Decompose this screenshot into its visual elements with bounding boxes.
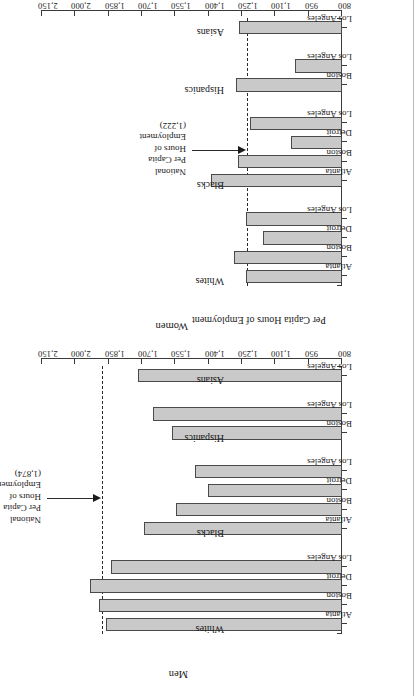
reference-annotation-line: Hours of [154,142,186,154]
chart-panel-men: Men Per Capita Hours of Employment 80095… [0,348,400,696]
value-axis-tick-label: 2,150 [38,349,58,359]
category-axis-tick [342,432,347,433]
value-axis-tick-label: 1,400 [205,1,225,11]
category-axis-tick [342,180,347,181]
bar [90,579,342,592]
bar [144,522,342,535]
group-label: Blacks [197,528,224,539]
category-label: Los Angeles [307,457,352,467]
category-axis-tick [342,470,347,471]
category-axis-tick [342,375,347,376]
value-axis-title: Per Capita Hours of Employment [192,315,326,326]
category-axis-tick [342,528,347,529]
value-axis-tick-label: 2,000 [71,1,91,11]
reference-annotation-line: Hours of [10,490,42,502]
category-label: Los Angeles [307,400,352,410]
panel-title-women: Women [156,321,188,332]
category-label: Los Angeles [307,362,352,372]
bar [211,174,342,187]
bar [176,503,342,516]
value-axis-tick-label: 950 [305,349,318,359]
value-axis-tick-label: 1,400 [205,349,225,359]
reference-annotation-line: Employment [140,131,187,143]
national-reference-line [247,18,248,286]
value-axis-tick-label: 1,700 [138,349,158,359]
reference-annotation-line: National [10,513,41,525]
category-axis-tick [342,84,347,85]
reference-arrow-head [238,146,246,154]
reference-arrow-shaft [47,498,95,499]
value-axis-tick-label: 1,550 [171,349,191,359]
value-axis-tick-label: 1,850 [105,349,125,359]
category-label: Los Angeles [307,14,352,24]
category-axis-tick [342,218,347,219]
category-axis-tick [342,566,347,567]
value-axis-tick-label: 1,550 [171,1,191,11]
category-axis-tick [342,275,347,276]
group-label: Whites [196,624,224,635]
chart-panel-women: Women Per Capita Hours of Employment 800… [0,0,400,348]
figure-page: Women Per Capita Hours of Employment 800… [0,0,414,696]
category-axis-tick [342,237,347,238]
category-axis-tick [342,27,347,28]
reference-annotation-line: National [155,165,186,177]
category-axis-tick [342,413,347,414]
reference-annotation-line: Employment [0,479,41,491]
group-label: Asians [197,27,224,38]
value-axis-tick-label: 1,250 [238,349,258,359]
bar [208,484,342,497]
category-axis-tick [342,65,347,66]
category-axis-tick [342,509,347,510]
value-axis-tick-label: 1,250 [238,1,258,11]
category-axis-tick [342,489,347,490]
group-label: Hispanics [185,85,224,96]
group-label: Asians [197,375,224,386]
group-label: Blacks [197,180,224,191]
category-axis-tick [342,141,347,142]
reference-annotation-line: (1,874) [15,467,41,479]
category-axis-tick [342,122,347,123]
reference-annotation-line: Per Capita [4,502,42,514]
group-label: Whites [196,276,224,287]
value-axis-tick-label: 1,700 [138,1,158,11]
category-axis-tick [342,256,347,257]
value-axis-tick-label: 1,850 [105,1,125,11]
category-label: Los Angeles [307,205,352,215]
category-label: Los Angeles [307,52,352,62]
category-axis-tick [342,623,347,624]
national-reference-line [102,366,103,634]
reference-annotation-line: (1,222) [160,119,186,131]
bar [106,618,342,631]
panel-title-men: Men [169,669,188,680]
value-axis-tick-label: 950 [305,1,318,11]
reference-arrow-shaft [192,150,240,151]
reference-arrow-head [93,494,101,502]
value-axis-tick-label: 800 [338,1,351,11]
category-label: Los Angeles [307,553,352,563]
value-axis-tick-label: 2,150 [38,1,58,11]
group-label: Hispanics [185,433,224,444]
reference-annotation-line: Per Capita [148,154,186,166]
category-axis-tick [342,585,347,586]
plot-area-men: Per Capita Hours of Employment 8009501,1… [42,366,342,634]
bar [99,599,342,612]
plot-area-women: Per Capita Hours of Employment 8009501,1… [42,18,342,286]
value-axis-tick-label: 2,000 [71,349,91,359]
category-axis-tick [342,161,347,162]
value-axis-tick-label: 800 [338,349,351,359]
value-axis-tick-label: 1,100 [271,349,291,359]
category-axis-tick [342,604,347,605]
value-axis-tick-label: 1,100 [271,1,291,11]
category-label: Los Angeles [307,109,352,119]
